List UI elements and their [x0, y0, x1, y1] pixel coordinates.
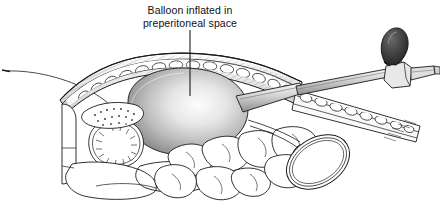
trocar-shaft-outer — [296, 68, 393, 95]
illustration-canvas: Balloon inflated in preperitoneal space — [0, 0, 440, 221]
insufflation-bulb — [381, 28, 408, 66]
anatomy-drawing — [0, 0, 440, 221]
